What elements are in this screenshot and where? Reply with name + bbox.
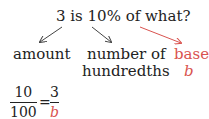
label-base: base, (174, 47, 209, 62)
fraction-right-numerator: 3 (50, 85, 59, 100)
label-number-of: number of (87, 47, 166, 62)
arrow-to-base (140, 27, 181, 43)
fraction-left-denominator: 100 (10, 105, 37, 119)
fraction-right-denominator: b (50, 105, 59, 119)
fraction-bar (10, 102, 37, 103)
equals-sign: = (39, 95, 51, 110)
fraction-left-numerator: 10 (14, 85, 32, 100)
label-base-variable: b (184, 64, 194, 79)
arrow-to-amount (40, 27, 62, 42)
fraction-right: 3 b (50, 85, 59, 119)
fraction-left: 10 100 (10, 85, 37, 119)
label-amount: amount (13, 47, 71, 62)
label-hundredths: hundredths (82, 64, 170, 79)
fraction-bar (50, 102, 59, 103)
arrow-to-number (92, 27, 111, 42)
